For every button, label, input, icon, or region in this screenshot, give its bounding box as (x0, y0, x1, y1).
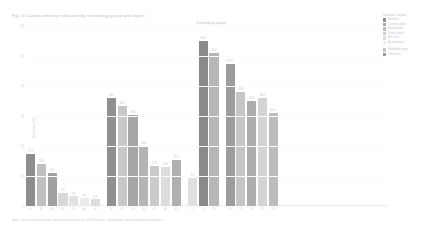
chart-page: Fig. 3 Carbon-intensity reduction by tec… (0, 0, 433, 235)
bar-value-label: 4.5 (61, 189, 65, 192)
y-axis-tick-label: 30 (21, 114, 24, 118)
bar-value-label: 13.5 (152, 162, 157, 165)
y-axis-tick-label: 40 (21, 84, 24, 88)
x-axis-tick-label: A6 (83, 208, 86, 211)
x-axis-tick-label: D5 (272, 208, 275, 211)
legend-title: Scenario / region (383, 13, 429, 17)
bar[interactable] (118, 106, 127, 207)
legend-swatch-icon (383, 18, 386, 21)
x-axis-tick-label: A1 (29, 208, 32, 211)
x-axis-tick-label: D1 (228, 208, 231, 211)
bar-value-label: 35.0 (249, 97, 254, 100)
bar[interactable] (258, 98, 267, 206)
x-axis-tick-label: A2 (40, 208, 43, 211)
bar[interactable] (269, 113, 278, 206)
bar[interactable] (236, 92, 245, 206)
x-axis-tick-label: D4 (261, 208, 264, 211)
x-axis-tick-label: B6 (164, 208, 167, 211)
bar[interactable] (128, 115, 137, 207)
chart-caption: Note: values are percentage reductions r… (12, 218, 163, 222)
x-axis-tick-label: B1 (110, 208, 113, 211)
bar-value-label: 15.5 (174, 156, 179, 159)
chart-legend: Scenario / region BaselineCurrent policy… (383, 13, 429, 57)
bar[interactable] (69, 196, 78, 206)
x-axis-tick-label: A5 (72, 208, 75, 211)
bar[interactable] (107, 98, 116, 206)
bar[interactable] (188, 178, 197, 207)
bar-value-label: 51.0 (211, 49, 216, 52)
bar-value-label: 36.0 (109, 94, 114, 97)
bar[interactable] (58, 193, 67, 207)
bar-value-label: 33.5 (120, 102, 125, 105)
bar-value-label: 17.5 (28, 150, 33, 153)
bar-value-label: 3.2 (72, 193, 76, 196)
y-axis-tick-label: 10 (21, 174, 24, 178)
x-axis-tick-label: C1 (191, 208, 194, 211)
gridline (26, 116, 388, 117)
chart-title: Fig. 3 Carbon-intensity reduction by tec… (12, 13, 145, 18)
gridline (26, 176, 388, 177)
x-axis-tick-label: B5 (153, 208, 156, 211)
bar[interactable] (199, 41, 208, 206)
x-axis-tick-label: B2 (121, 208, 124, 211)
x-axis-tick-label: B7 (175, 208, 178, 211)
legend-item-label: Observed (388, 53, 401, 56)
gridline (26, 26, 388, 27)
bar-value-label: 11.0 (50, 169, 55, 172)
x-axis-tick-label: A3 (51, 208, 54, 211)
x-axis-tick-label: B4 (142, 208, 145, 211)
x-axis-tick-label: C3 (212, 208, 215, 211)
x-axis-tick-label: D3 (250, 208, 253, 211)
gridline (26, 146, 388, 147)
x-axis-tick-label: A7 (94, 208, 97, 211)
gridline (26, 56, 388, 57)
legend-item[interactable]: Accelerated (383, 41, 429, 45)
y-axis-tick-label: 50 (21, 54, 24, 58)
x-axis-tick-label: A4 (61, 208, 64, 211)
legend-items: BaselineCurrent policyAnnouncedStated go… (383, 18, 429, 56)
bar-value-label: 55.0 (201, 37, 206, 40)
bar-value-label: 30.5 (130, 111, 135, 114)
plot-area: Reduction (%) 6050403020100 17.5A114.0A2… (26, 26, 388, 206)
bar-value-label: 20.0 (141, 142, 146, 145)
bar-value-label: 36.0 (260, 94, 265, 97)
bar[interactable] (91, 199, 100, 206)
bar-value-label: 38.0 (238, 88, 243, 91)
gridline (26, 206, 388, 207)
bar[interactable] (209, 53, 218, 206)
bar-value-label: 47.5 (227, 60, 232, 63)
gridline (26, 86, 388, 87)
legend-item-label: Accelerated (388, 41, 403, 44)
x-axis-tick-label: B3 (131, 208, 134, 211)
bar[interactable] (37, 164, 46, 206)
y-axis-tick-label: 20 (21, 144, 24, 148)
bar[interactable] (26, 154, 35, 207)
bar-value-label: 31.0 (271, 109, 276, 112)
bar[interactable] (150, 166, 159, 207)
bar[interactable] (48, 173, 57, 206)
y-axis-tick-label: 60 (21, 24, 24, 28)
bar[interactable] (172, 160, 181, 207)
bar-value-label: 2.2 (93, 196, 97, 199)
bar[interactable] (80, 198, 89, 206)
legend-item[interactable]: Observed (383, 53, 429, 57)
y-axis-tick-label: 0 (22, 204, 24, 208)
bar[interactable] (226, 64, 235, 207)
bar[interactable] (161, 167, 170, 206)
bar-value-label: 13.0 (163, 163, 168, 166)
bar-value-label: 2.6 (83, 194, 87, 197)
x-axis-tick-label: D2 (239, 208, 242, 211)
x-axis-tick-label: C2 (201, 208, 204, 211)
bar-value-label: 14.0 (39, 160, 44, 163)
group-axis-label: Technology group (196, 21, 226, 25)
